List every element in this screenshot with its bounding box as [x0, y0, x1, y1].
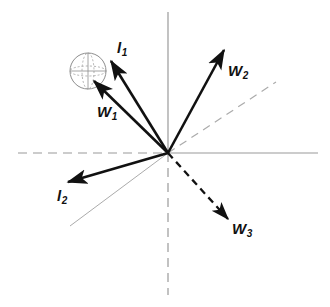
unit-sphere	[70, 53, 106, 89]
vector-diagram-figure: l1 W1 W2 l2 W3	[0, 0, 330, 307]
vector-label-w2-subscript: 2	[242, 70, 248, 81]
vector-label-l2: l2	[57, 188, 67, 206]
vector-label-w2: W2	[228, 63, 248, 81]
vector-label-w3: W3	[232, 221, 252, 239]
vector-label-w2-text: W	[228, 62, 242, 79]
vector-label-w1-text: W	[97, 103, 111, 120]
vector-label-w1: W1	[97, 104, 117, 122]
vector-group	[68, 50, 228, 219]
vector-label-l1-subscript: 1	[121, 47, 127, 58]
guide-line-upper-right	[168, 82, 276, 153]
vector-l2	[68, 153, 168, 182]
vector-label-w3-text: W	[232, 220, 246, 237]
vector-w3	[168, 153, 228, 219]
vector-label-w3-subscript: 3	[246, 228, 252, 239]
diagram-canvas	[0, 0, 330, 307]
vector-label-l2-subscript: 2	[61, 195, 67, 206]
vector-w2	[168, 50, 224, 153]
vector-label-w1-subscript: 1	[111, 111, 117, 122]
guide-line-lower-left	[70, 153, 168, 226]
vector-label-l1: l1	[117, 40, 127, 58]
